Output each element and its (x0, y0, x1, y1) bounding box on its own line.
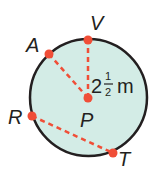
label-a: A (25, 34, 39, 56)
label-r: R (8, 106, 22, 128)
measurement-unit: m (117, 75, 134, 97)
measurement-denominator: 2 (105, 86, 111, 98)
label-v: V (90, 12, 105, 34)
measurement-whole: 2 (91, 75, 102, 97)
measurement-numerator: 1 (105, 70, 111, 82)
label-p: P (80, 109, 94, 131)
point-v (84, 36, 93, 45)
label-t: T (118, 148, 132, 170)
circle-diagram: V A P R T 2 1 2 m (0, 0, 153, 170)
point-t (109, 149, 118, 158)
point-a (45, 50, 54, 59)
point-r (28, 112, 37, 121)
